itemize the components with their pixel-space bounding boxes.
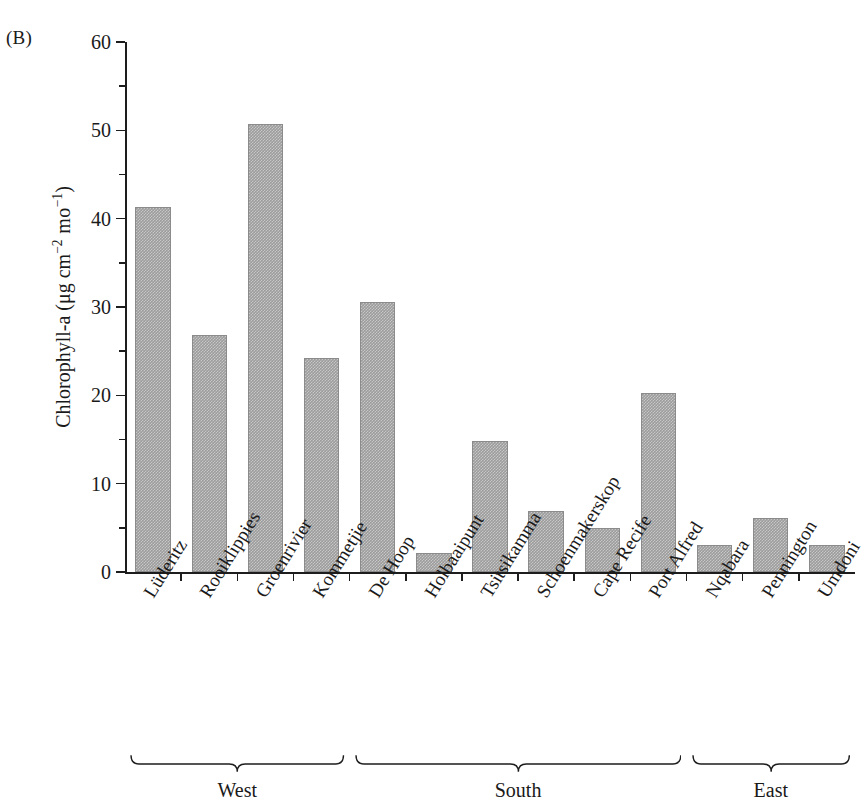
bar [304,358,339,572]
y-axis-title-exp1: −2 [50,239,65,253]
y-tick-major [116,218,125,220]
y-tick-minor [119,85,125,86]
bar [192,335,227,572]
y-tick-label: 40 [91,209,111,229]
x-tick [742,572,744,581]
group-bracket: West [130,753,345,807]
plot-area: 0102030405060 [125,42,855,572]
y-axis-title: Chlorophyll-a (μg cm−2 mo−1) [48,42,78,572]
figure-panel-b: (B) Chlorophyll-a (μg cm−2 mo−1) 0102030… [0,0,866,807]
y-tick-minor [119,174,125,175]
y-tick-label: 60 [91,32,111,52]
brace-icon [692,753,850,775]
x-tick [517,572,519,581]
y-tick-major [116,395,125,397]
y-tick-major [116,130,125,132]
y-axis-line [125,42,127,572]
group-label: East [692,775,850,805]
y-axis-title-main: Chlorophyll-a (μg cm [52,254,74,428]
brace-icon [355,753,682,775]
y-tick-major [116,306,125,308]
y-tick-label: 10 [91,474,111,494]
group-label: South [355,775,682,805]
y-tick-label: 30 [91,297,111,317]
group-bracket: South [355,753,682,807]
group-brackets: WestSouthEast [0,753,866,807]
x-tick [798,572,800,581]
y-tick-minor [119,439,125,440]
y-tick-minor [119,527,125,528]
x-tick [405,572,407,581]
y-tick-minor [119,262,125,263]
y-tick-label: 20 [91,385,111,405]
bar [135,207,170,572]
x-tick [349,572,351,581]
y-axis-title-end: ) [52,186,74,193]
panel-label: (B) [6,28,32,47]
y-axis-title-mid: mo [52,207,74,239]
x-tick [630,572,632,581]
bar [248,124,283,572]
y-tick-label: 50 [91,120,111,140]
y-axis-title-exp2: −1 [50,193,65,207]
y-tick-major [116,483,125,485]
x-tick [573,572,575,581]
group-label: West [130,775,345,805]
x-tick [293,572,295,581]
x-tick [686,572,688,581]
brace-icon [130,753,345,775]
x-tick [461,572,463,581]
x-tick [180,572,182,581]
y-tick-major [116,571,125,573]
x-tick [237,572,239,581]
y-tick-label: 0 [101,562,111,582]
group-bracket: East [692,753,850,807]
y-tick-major [116,41,125,43]
y-tick-minor [119,350,125,351]
